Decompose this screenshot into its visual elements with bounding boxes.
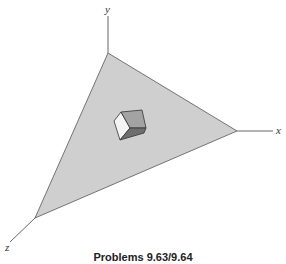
z-axis	[10, 218, 35, 242]
y-axis-label: y	[104, 3, 110, 15]
x-axis-label: x	[275, 124, 281, 136]
diagram-canvas: y x z	[0, 0, 286, 264]
figure-caption: Problems 9.63/9.64	[0, 251, 286, 263]
